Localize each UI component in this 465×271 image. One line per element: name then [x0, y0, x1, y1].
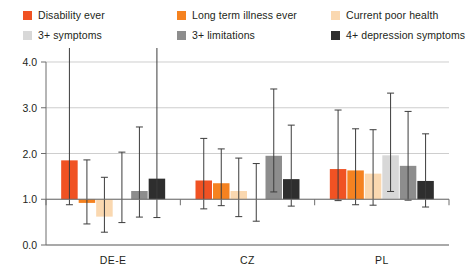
legend-label-current-poor-health: Current poor health	[346, 10, 438, 21]
legend-row-bottom: 3+ symptoms 3+ limitations 4+ depression…	[0, 26, 457, 44]
x-tick-label-PL: PL	[375, 254, 389, 266]
legend-label-3-plus-limitations: 3+ limitations	[192, 30, 255, 41]
chart-plot-area: 0.01.02.03.04.0 DE-ECZPL	[0, 48, 457, 271]
legend-label-4-plus-depression-symptoms: 4+ depression symptoms	[346, 30, 465, 41]
gridlines-group	[46, 62, 449, 245]
legend-item-3-plus-symptoms: 3+ symptoms	[23, 26, 102, 44]
chart-legend: Disability ever Long term illness ever C…	[0, 0, 457, 48]
y-tick-label-3.0: 3.0	[22, 102, 37, 114]
y-tick-marks-group	[41, 62, 46, 245]
legend-label-3-plus-symptoms: 3+ symptoms	[38, 30, 102, 41]
legend-item-long-term-illness-ever: Long term illness ever	[177, 6, 297, 24]
legend-item-4-plus-depression-symptoms: 4+ depression symptoms	[331, 26, 465, 44]
legend-label-disability-ever: Disability ever	[38, 10, 105, 21]
y-tick-label-1.0: 1.0	[22, 193, 37, 205]
bar-chart-svg: 0.01.02.03.04.0 DE-ECZPL	[0, 48, 457, 271]
y-tick-label-4.0: 4.0	[22, 56, 37, 68]
legend-item-current-poor-health: Current poor health	[331, 6, 438, 24]
x-tick-label-CZ: CZ	[240, 254, 255, 266]
legend-swatch-3-plus-symptoms	[23, 31, 32, 40]
y-tick-label-0.0: 0.0	[22, 239, 37, 251]
legend-item-3-plus-limitations: 3+ limitations	[177, 26, 255, 44]
legend-swatch-current-poor-health	[331, 11, 340, 20]
bars-group	[61, 155, 434, 216]
x-tick-labels-group: DE-ECZPL	[100, 254, 389, 266]
y-tick-labels-group: 0.01.02.03.04.0	[22, 56, 37, 251]
legend-item-disability-ever: Disability ever	[23, 6, 105, 24]
legend-swatch-disability-ever	[23, 11, 32, 20]
legend-swatch-4-plus-depression-symptoms	[331, 31, 340, 40]
legend-swatch-3-plus-limitations	[177, 31, 186, 40]
error-bars-group	[66, 48, 429, 232]
x-tick-label-DE-E: DE-E	[100, 254, 127, 266]
legend-label-long-term-illness-ever: Long term illness ever	[192, 10, 297, 21]
legend-swatch-long-term-illness-ever	[177, 11, 186, 20]
y-tick-label-2.0: 2.0	[22, 148, 37, 160]
legend-row-top: Disability ever Long term illness ever C…	[0, 6, 457, 24]
